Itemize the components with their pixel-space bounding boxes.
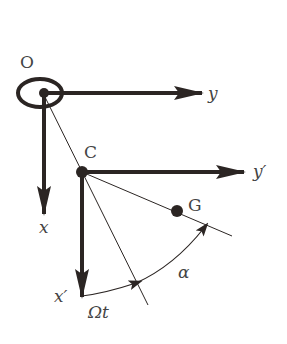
alpha-arc-arrow xyxy=(136,228,204,283)
rotating-frame-diagram: O y x C y′ x′ G Ωt α xyxy=(0,0,287,344)
label-y-axis: y xyxy=(207,83,218,103)
label-point-c: C xyxy=(84,142,97,162)
label-origin: O xyxy=(20,52,34,72)
label-x-prime-axis: x′ xyxy=(54,286,68,306)
cg-line xyxy=(82,172,232,236)
point-g-dot xyxy=(171,205,183,217)
label-y-prime-axis: y′ xyxy=(252,161,267,181)
omega-t-arc-arrow xyxy=(82,283,136,296)
label-point-g: G xyxy=(188,195,202,215)
oc-line xyxy=(43,93,148,305)
label-omega-t: Ωt xyxy=(87,302,109,322)
label-x-axis: x xyxy=(39,217,49,237)
label-alpha: α xyxy=(178,262,190,282)
